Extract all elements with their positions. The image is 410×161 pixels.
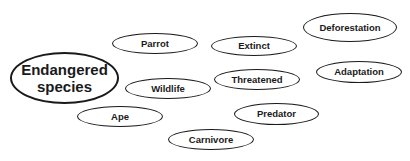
node-predator: Predator <box>234 103 319 125</box>
node-parrot: Parrot <box>112 33 198 54</box>
node-label: Extinct <box>238 41 270 51</box>
node-wildlife: Wildlife <box>125 78 211 99</box>
central-node-label-line1: Endangered <box>21 61 108 78</box>
node-ape: Ape <box>77 106 163 127</box>
node-label: Parrot <box>141 39 169 49</box>
node-adaptation: Adaptation <box>316 61 402 83</box>
node-label: Ape <box>111 112 129 122</box>
node-label: Threatened <box>231 75 282 85</box>
node-extinct: Extinct <box>211 36 297 56</box>
central-node-endangered-species: Endangered species <box>10 52 119 104</box>
node-label: Deforestation <box>319 23 380 33</box>
concept-diagram: Endangered species Parrot Extinct Defore… <box>0 0 410 161</box>
node-label: Carnivore <box>189 135 233 145</box>
node-threatened: Threatened <box>214 69 300 90</box>
node-carnivore: Carnivore <box>168 129 254 150</box>
node-label: Wildlife <box>151 84 185 94</box>
central-node-label-line2: species <box>37 78 92 95</box>
node-deforestation: Deforestation <box>303 13 397 42</box>
node-label: Predator <box>257 109 296 119</box>
node-label: Adaptation <box>334 67 384 77</box>
